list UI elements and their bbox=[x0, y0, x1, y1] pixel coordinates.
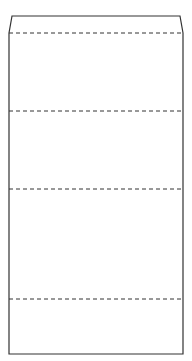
box-outline bbox=[9, 16, 183, 354]
segmented-box-diagram bbox=[0, 0, 192, 361]
